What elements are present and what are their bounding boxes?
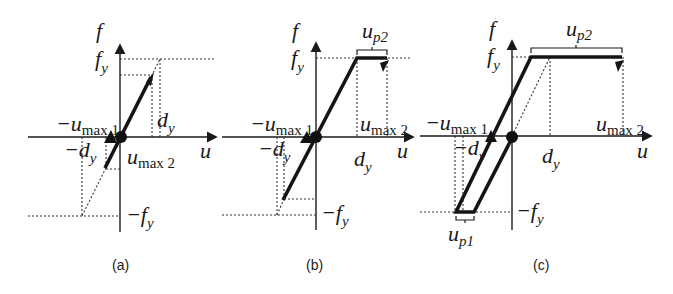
hysteresis-diagram: f fy u dy −umax 1 −dy umax 2 −fy (a) f f… <box>0 0 673 294</box>
arrow-head <box>380 60 389 72</box>
svg-text:u: u <box>637 138 648 163</box>
panel-a: f fy u dy −umax 1 −dy umax 2 −fy (a) <box>28 18 216 273</box>
svg-text:−fy: −fy <box>126 202 154 231</box>
svg-text:−umax 1: −umax 1 <box>56 111 119 138</box>
svg-text:−dy: −dy <box>258 136 291 165</box>
panel-b: f fy up2 u dy −umax 1 −dy umax 2 −fy (b) <box>222 18 412 273</box>
panel-c: f fy up2 u dy −umax 1 −dy umax 2 −fy up1… <box>420 16 650 273</box>
caption-b: (b) <box>306 257 323 273</box>
svg-text:−umax 1: −umax 1 <box>425 110 488 137</box>
svg-text:dy: dy <box>354 146 372 175</box>
svg-text:umax 2: umax 2 <box>596 111 644 138</box>
caption-c: (c) <box>533 257 549 273</box>
caption-a: (a) <box>112 257 129 273</box>
svg-text:u: u <box>397 138 408 163</box>
svg-text:f: f <box>96 18 105 43</box>
svg-text:f: f <box>292 18 301 43</box>
elastic-envelope <box>512 57 550 136</box>
up2-bracket <box>357 47 387 55</box>
svg-text:−umax 1: −umax 1 <box>250 111 313 138</box>
svg-text:dy: dy <box>157 107 175 136</box>
svg-text:up2: up2 <box>362 18 389 45</box>
svg-text:u: u <box>200 138 211 163</box>
svg-text:up2: up2 <box>566 16 593 43</box>
svg-text:f: f <box>489 16 498 41</box>
svg-text:−fy: −fy <box>321 200 349 229</box>
svg-text:fy: fy <box>487 43 500 73</box>
svg-text:−fy: −fy <box>516 198 544 227</box>
svg-text:umax 2: umax 2 <box>127 144 175 171</box>
svg-text:dy: dy <box>542 143 560 172</box>
svg-text:−dy: −dy <box>453 135 486 164</box>
origin-dot <box>506 131 518 143</box>
svg-text:umax 2: umax 2 <box>360 111 408 138</box>
svg-text:fy: fy <box>95 46 108 76</box>
svg-text:fy: fy <box>291 45 304 75</box>
svg-text:−dy: −dy <box>64 137 97 166</box>
svg-text:up1: up1 <box>448 221 474 249</box>
up2-bracket <box>531 45 622 53</box>
